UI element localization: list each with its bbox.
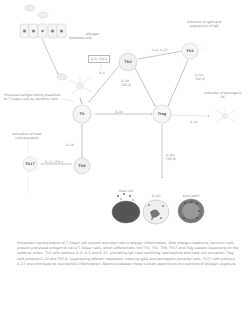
edge-label-th1-treg: IL-10, TGF-β (195, 73, 209, 81)
node-th0: Th (80, 112, 85, 116)
node-th17: Th17 (25, 162, 35, 166)
dc-note: Processed antigen being presented to T h… (4, 93, 62, 101)
edge-label-th0-treg: IL-10 (115, 110, 123, 114)
edge-label-treg-dc: IL-10 (190, 120, 198, 124)
edge-label-th2-th1: IL-4, IL-13 (152, 48, 168, 52)
cell-label-eos: Eosinophil (183, 194, 199, 198)
cell-label-mast: Mast cell (119, 189, 133, 193)
edge-label-th0-th9: IL-10 (66, 143, 74, 147)
cytokine-box: IL-5, IFN-γ (88, 55, 110, 63)
annotation-left-mid: Activation of mast cells/basophils (7, 132, 47, 140)
edge-label-th2-treg: IL-10, TGF-β (121, 79, 135, 87)
node-th1: Th1 (186, 49, 193, 53)
epithelium-label: Epithelial cells (69, 36, 92, 40)
figure-caption: Schematic representation of T helper cel… (17, 241, 239, 267)
annotation-top-right: Induction of IgG4 and suppression of IgE (182, 20, 226, 28)
cell-label-bcell: B cell (152, 194, 161, 198)
allergen-label: Allergen (86, 32, 99, 36)
node-treg: Treg (158, 112, 167, 116)
edge-label-treg-down: IL-10, TGF-β (166, 153, 180, 161)
annotation-right-mid: Induction of tolerogenic DC (203, 91, 243, 99)
edge-label-th9-th17: IL-17, IFN-γ (45, 160, 63, 164)
edge-label-il4: IL-4 (99, 71, 105, 75)
node-th9: Th9 (78, 164, 85, 168)
node-th2: Th2 (124, 60, 131, 64)
